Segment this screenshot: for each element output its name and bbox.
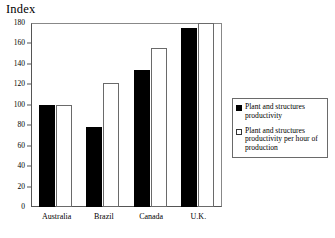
y-tick-label: 160 bbox=[14, 40, 25, 48]
chart-legend: Plant and structures productivity Plant … bbox=[232, 98, 328, 158]
legend-entry-0: Plant and structures productivity bbox=[236, 103, 324, 121]
bar bbox=[198, 23, 214, 207]
bar bbox=[39, 105, 55, 207]
bar bbox=[103, 83, 119, 207]
x-category-label: Brazil bbox=[94, 212, 114, 222]
legend-swatch-filled-square-icon bbox=[236, 105, 242, 111]
legend-label-1: Plant and structures productivity per ho… bbox=[245, 127, 324, 153]
legend-swatch-open-square-icon bbox=[236, 129, 242, 135]
y-axis-tick-labels: 020406080100120140160180 bbox=[0, 0, 31, 238]
y-tick-label: 80 bbox=[18, 121, 26, 129]
y-tick-label: 120 bbox=[14, 81, 25, 89]
plot-area bbox=[31, 23, 222, 207]
chart-root: Index 020406080100120140160180 Australia… bbox=[0, 0, 335, 238]
legend-label-0: Plant and structures productivity bbox=[245, 103, 324, 121]
bar bbox=[181, 28, 197, 207]
x-category-label: U.K. bbox=[191, 212, 207, 222]
x-category-label: Canada bbox=[139, 212, 163, 222]
bar bbox=[56, 105, 72, 207]
bars-container bbox=[31, 23, 222, 207]
y-tick-label: 180 bbox=[14, 19, 25, 27]
x-category-label: Australia bbox=[42, 212, 71, 222]
bar bbox=[151, 48, 167, 207]
y-tick-label: 140 bbox=[14, 60, 25, 68]
y-tick-label: 60 bbox=[18, 142, 26, 150]
y-tick-label: 40 bbox=[18, 162, 26, 170]
y-tick-label: 0 bbox=[21, 203, 25, 211]
y-tick-label: 100 bbox=[14, 101, 25, 109]
legend-entry-1: Plant and structures productivity per ho… bbox=[236, 127, 324, 153]
x-axis-category-labels: AustraliaBrazilCanadaU.K. bbox=[32, 210, 221, 228]
y-tick-label: 20 bbox=[18, 183, 26, 191]
bar bbox=[134, 70, 150, 207]
bar bbox=[86, 127, 102, 207]
